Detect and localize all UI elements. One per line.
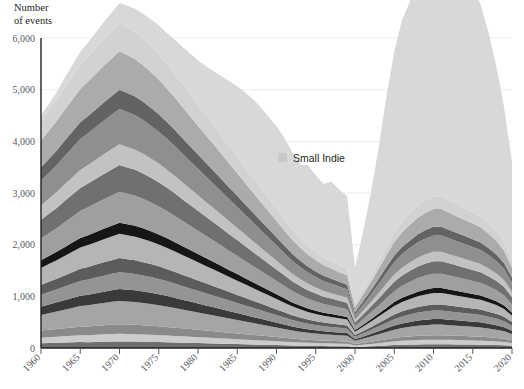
- x-tick-label-2000: 2000: [334, 352, 356, 374]
- x-tick-label-1975: 1975: [138, 352, 160, 374]
- y-tick-label-6000: 6,000: [13, 33, 36, 44]
- x-tick-label-2015: 2015: [452, 352, 474, 374]
- x-tick-label-1980: 1980: [177, 352, 199, 374]
- y-tick-label-5000: 5,000: [13, 84, 36, 95]
- y-tick-label-3000: 3,000: [13, 188, 36, 199]
- y-tick-label-4000: 4,000: [13, 136, 36, 147]
- legend-label-small-indie: Small Indie: [293, 152, 345, 164]
- y-tick-label-2000: 2,000: [13, 239, 36, 250]
- chart-root: Number of events 01,0002,0003,0004,0005,…: [0, 0, 524, 389]
- x-tick-label-1965: 1965: [60, 352, 82, 374]
- x-tick-label-2005: 2005: [374, 352, 396, 374]
- legend-swatch-small-indie: [278, 153, 287, 162]
- stacked-area-chart: 01,0002,0003,0004,0005,0006,000196019651…: [0, 0, 524, 389]
- x-tick-label-1995: 1995: [295, 352, 317, 374]
- y-tick-label-1000: 1,000: [13, 291, 36, 302]
- x-tick-label-1970: 1970: [99, 352, 121, 374]
- x-tick-label-2010: 2010: [413, 352, 435, 374]
- x-tick-label-1960: 1960: [20, 352, 42, 374]
- x-tick-label-1985: 1985: [217, 352, 239, 374]
- x-tick-label-2020: 2020: [491, 352, 513, 374]
- x-tick-label-1990: 1990: [256, 352, 278, 374]
